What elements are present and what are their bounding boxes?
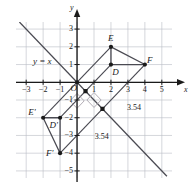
vertex-dot-D — [109, 62, 113, 66]
distance-label-0: 3.54 — [127, 104, 141, 112]
geometry-figure: EDFE'D'F'Oy = xxy3.543.54−3−2−112345321−… — [0, 0, 194, 192]
coordinate-plane — [0, 0, 194, 192]
point-label-Fp: F' — [46, 149, 53, 158]
x-tick-label: 4 — [143, 86, 147, 94]
midpoint-marker-1 — [100, 107, 104, 111]
point-label-Dp: D' — [49, 121, 57, 130]
point-label-Ep: E' — [28, 108, 35, 117]
y-tick-label: 1 — [69, 61, 73, 69]
midpoint-marker-0 — [83, 89, 87, 93]
vertex-dot-Dp — [58, 116, 62, 120]
y-tick-label: −2 — [65, 114, 74, 122]
y-axis-name: y — [70, 4, 74, 12]
x-tick-label: −2 — [39, 86, 48, 94]
x-axis-name: x — [184, 86, 188, 94]
x-tick-label: 1 — [92, 86, 96, 94]
y-tick-label: −3 — [65, 131, 74, 139]
x-tick-label: −1 — [56, 86, 65, 94]
point-label-E: E — [108, 34, 114, 43]
y-tick-label: −5 — [65, 167, 74, 175]
vertex-dot-Ep — [41, 116, 45, 120]
point-label-D: D — [112, 68, 119, 77]
x-tick-label: 3 — [126, 86, 130, 94]
x-tick-label: 5 — [160, 86, 164, 94]
y-tick-label: −1 — [65, 96, 74, 104]
origin-label: O — [71, 84, 78, 93]
point-label-F: F — [147, 56, 153, 65]
x-tick-label: −3 — [22, 86, 31, 94]
distance-label-1: 3.54 — [95, 133, 109, 141]
y-tick-label: 2 — [69, 43, 73, 51]
y-axis-arrow — [74, 9, 80, 17]
y-tick-label: −4 — [65, 149, 74, 157]
line-equation-label: y = x — [33, 57, 52, 66]
x-tick-label: 2 — [109, 86, 113, 94]
y-tick-label: 3 — [69, 25, 73, 33]
vertex-dot-Fp — [58, 151, 62, 155]
vertex-dot-E — [109, 45, 113, 49]
